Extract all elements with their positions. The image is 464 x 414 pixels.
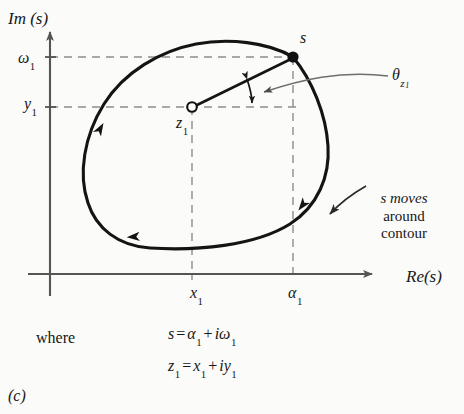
point-z1-label-sub: 1 <box>182 125 188 137</box>
eq-s-term1-base: α <box>187 325 195 342</box>
contour-path-group <box>83 41 328 248</box>
vector-z1-to-s <box>197 59 291 105</box>
theta-leader-group <box>264 74 388 92</box>
eq-z1-equals: = <box>180 357 193 374</box>
axes <box>28 32 372 296</box>
eq-s-term2-sub: 1 <box>230 336 236 348</box>
theta-annotation-label: θz1 <box>392 67 409 83</box>
figure-container: Im (s) Re(s) ω1 y1 x1 α1 s z1 θz1 s move… <box>0 0 464 414</box>
equation-z1: z1=x1+iy1 <box>168 358 237 374</box>
contour-note-line-1: s moves <box>380 190 427 206</box>
y-tick-label-omega1-sub: 1 <box>29 60 35 72</box>
eq-s-term1-sub: 1 <box>196 336 202 348</box>
y-axis-label: Im (s) <box>8 10 48 27</box>
theta-base: θ <box>392 66 400 83</box>
eq-z1-lhs-sub: 1 <box>174 368 180 380</box>
eq-z1-term2-base: y <box>224 357 231 374</box>
point-s-label: s <box>300 30 306 46</box>
point-s-marker <box>287 51 298 62</box>
y-tick-label-omega1: ω1 <box>18 50 35 66</box>
contour-note-line-2: around <box>383 208 425 224</box>
x-axis-label: Re(s) <box>406 268 442 285</box>
theta-leader-line <box>264 74 388 92</box>
contour-path <box>83 41 328 248</box>
point-z1-marker <box>187 102 197 112</box>
x-tick-label-x1-sub: 1 <box>197 295 203 307</box>
y-tick-label-y1-sub: 1 <box>31 106 37 118</box>
where-label: where <box>36 330 75 346</box>
eq-s-plus: + <box>202 325 215 342</box>
y-tick-label-omega1-base: ω <box>18 49 29 66</box>
z1-s-line <box>197 59 291 105</box>
y-tick-label-y1: y1 <box>24 96 37 112</box>
angle-indicator-theta <box>247 79 252 103</box>
contour-direction-arrows <box>93 121 310 242</box>
theta-sub: z <box>400 77 405 89</box>
point-z1-label: z1 <box>176 115 188 131</box>
contour-arrow-bottom <box>126 232 140 242</box>
theta-sub-sub: 1 <box>405 81 410 90</box>
eq-s-equals: = <box>174 325 187 342</box>
x-tick-label-alpha1: α1 <box>288 285 302 301</box>
contour-note: s moves around contour <box>352 190 456 243</box>
x-tick-label-alpha1-sub: 1 <box>296 295 302 307</box>
theta-angle-arc <box>247 79 252 103</box>
guide-lines <box>50 57 300 280</box>
eq-z1-term1-sub: 1 <box>200 368 206 380</box>
x-tick-label-x1: x1 <box>190 285 203 301</box>
eq-z1-plus: + <box>206 357 219 374</box>
eq-s-term2-base: ω <box>219 325 230 342</box>
contour-note-line-3: contour <box>381 225 427 241</box>
figure-caption: (c) <box>8 388 26 404</box>
equation-s: s=α1+iω1 <box>168 326 236 342</box>
eq-z1-term2-sub: 1 <box>231 368 237 380</box>
